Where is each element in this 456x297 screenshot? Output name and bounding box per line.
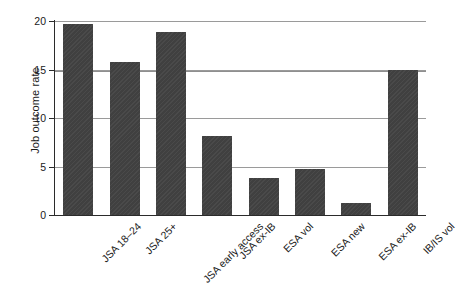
y-tick-label: 20 <box>26 16 46 26</box>
x-axis-label[interactable]: ESA ex-IB <box>376 220 418 262</box>
y-tick-mark <box>49 215 55 216</box>
bar[interactable] <box>110 62 140 215</box>
y-axis-title: Job outcome rate <box>26 3 44 218</box>
y-tick-label: 15 <box>26 65 46 75</box>
bar[interactable] <box>63 24 93 215</box>
plot-area <box>55 21 426 215</box>
bar[interactable] <box>249 178 279 215</box>
bar[interactable] <box>388 70 418 216</box>
x-axis-label[interactable]: JSA 18–24 <box>99 220 143 264</box>
y-tick-label: 0 <box>26 210 46 220</box>
x-axis-line <box>54 215 426 216</box>
x-axis-label[interactable]: JSA early access <box>200 220 265 285</box>
y-tick-label: 10 <box>26 113 46 123</box>
x-axis-label[interactable]: ESA new <box>329 220 368 259</box>
x-axis-label[interactable]: IB/IS vol <box>420 220 456 256</box>
bar[interactable] <box>295 169 325 215</box>
bar[interactable] <box>156 32 186 215</box>
bar[interactable] <box>341 203 371 215</box>
bars-group <box>55 21 426 215</box>
y-tick-label: 5 <box>26 162 46 172</box>
x-axis-label[interactable]: JSA 25+ <box>142 220 178 256</box>
bar[interactable] <box>202 136 232 215</box>
x-axis-label[interactable]: ESA vol <box>280 220 314 254</box>
